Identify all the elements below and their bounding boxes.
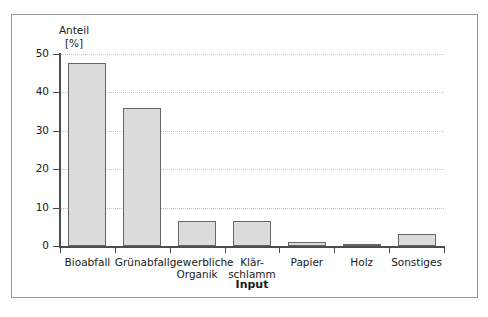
- x-axis-tick: [334, 247, 335, 253]
- bar: [178, 221, 216, 246]
- x-axis-tick-label: Grünabfall: [115, 256, 170, 268]
- bar: [123, 108, 161, 246]
- x-axis-tick-label: Holz: [334, 256, 389, 268]
- x-axis-tick: [225, 247, 226, 253]
- gridline: [60, 54, 444, 55]
- gridline: [60, 131, 444, 132]
- y-axis-tick-label: 0: [14, 239, 49, 251]
- gridline: [60, 92, 444, 93]
- x-axis-tick: [60, 247, 61, 253]
- y-axis-tick: [53, 208, 60, 209]
- x-axis-tick-label: Bioabfall: [60, 256, 115, 268]
- y-axis-tick: [53, 246, 60, 247]
- y-axis-tick-label: 30: [14, 124, 49, 136]
- bar: [398, 234, 436, 246]
- x-axis-tick-label: Sonstiges: [389, 256, 444, 268]
- y-axis-tick: [53, 54, 60, 55]
- y-axis-tick: [53, 92, 60, 93]
- y-axis-title: Anteil [%]: [38, 24, 110, 49]
- x-axis-tick: [279, 247, 280, 253]
- x-axis-tick: [115, 247, 116, 253]
- plot-area: [60, 54, 444, 246]
- x-axis-line: [59, 246, 445, 248]
- x-axis-tick-label: Klär- schlamm: [225, 256, 280, 280]
- bar: [233, 221, 271, 246]
- y-axis-tick-label: 50: [14, 47, 49, 59]
- gridline: [60, 208, 444, 209]
- chart-figure: Anteil [%] Input 01020304050BioabfallGrü…: [0, 0, 488, 317]
- y-axis-line: [59, 53, 61, 247]
- x-axis-tick: [444, 247, 445, 253]
- y-axis-tick-label: 20: [14, 162, 49, 174]
- x-axis-tick-label: gewerbliche Organik: [170, 256, 225, 280]
- x-axis-tick-label: Papier: [279, 256, 334, 268]
- x-axis-tick: [389, 247, 390, 253]
- bar: [68, 63, 106, 246]
- x-axis-tick: [170, 247, 171, 253]
- y-axis-tick: [53, 131, 60, 132]
- y-axis-tick-label: 10: [14, 201, 49, 213]
- y-axis-tick-label: 40: [14, 85, 49, 97]
- y-axis-tick: [53, 169, 60, 170]
- gridline: [60, 169, 444, 170]
